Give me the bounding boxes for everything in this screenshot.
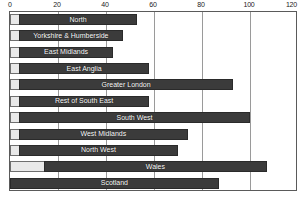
bar-row: West Midlands bbox=[10, 127, 296, 143]
bar-body: East Anglia bbox=[19, 63, 149, 74]
x-axis-tick-label: 20 bbox=[53, 0, 60, 9]
bar[interactable]: North bbox=[10, 14, 137, 25]
bar-body: Scotland bbox=[10, 178, 219, 189]
bar-body: North bbox=[19, 14, 137, 25]
x-axis-tick-label: 80 bbox=[197, 0, 204, 9]
bar-label: Scotland bbox=[11, 179, 218, 187]
x-axis-tick-label: 60 bbox=[149, 0, 156, 9]
bar[interactable]: East Anglia bbox=[10, 63, 149, 74]
bar-row: East Anglia bbox=[10, 61, 296, 77]
bar-label: South West bbox=[20, 114, 249, 122]
bar-row: Scotland bbox=[10, 176, 296, 192]
bar-row: Rest of South East bbox=[10, 94, 296, 110]
bar-row: East Midlands bbox=[10, 45, 296, 61]
bar-label: Wales bbox=[45, 163, 266, 171]
bar-start-cap bbox=[10, 161, 44, 172]
bar[interactable]: Scotland bbox=[10, 178, 219, 189]
bar-body: Greater London bbox=[19, 79, 233, 90]
bar-start-cap bbox=[10, 112, 19, 123]
bar[interactable]: Wales bbox=[10, 161, 267, 172]
bar-row: Yorkshire & Humberside bbox=[10, 28, 296, 44]
bar[interactable]: Rest of South East bbox=[10, 96, 149, 107]
bar-body: Wales bbox=[44, 161, 267, 172]
bar-label: East Anglia bbox=[20, 65, 148, 73]
bar-chart: 020406080100120 NorthYorkshire & Humbers… bbox=[0, 0, 305, 199]
bar-row: Wales bbox=[10, 159, 296, 175]
bar-label: Rest of South East bbox=[20, 97, 148, 105]
x-axis-tick-label: 100 bbox=[243, 0, 254, 9]
bar-body: East Midlands bbox=[19, 47, 113, 58]
bar-row: North bbox=[10, 12, 296, 28]
plot-area: NorthYorkshire & HumbersideEast Midlands… bbox=[9, 11, 297, 191]
bar[interactable]: East Midlands bbox=[10, 47, 113, 58]
bar[interactable]: Yorkshire & Humberside bbox=[10, 30, 123, 41]
bar[interactable]: Greater London bbox=[10, 79, 233, 90]
bar-start-cap bbox=[10, 145, 19, 156]
bar-body: South West bbox=[19, 112, 250, 123]
bar[interactable]: South West bbox=[10, 112, 250, 123]
bar-row: South West bbox=[10, 110, 296, 126]
bar-start-cap bbox=[10, 79, 19, 90]
bar-row: North West bbox=[10, 143, 296, 159]
bar-label: Greater London bbox=[20, 81, 232, 89]
bar-start-cap bbox=[10, 96, 19, 107]
bar-label: East Midlands bbox=[20, 48, 112, 56]
bar-label: West Midlands bbox=[20, 130, 187, 138]
bar-start-cap bbox=[10, 14, 19, 25]
x-axis-tick-label: 40 bbox=[101, 0, 108, 9]
x-axis-tick-label: 0 bbox=[8, 0, 12, 9]
bar-body: Yorkshire & Humberside bbox=[19, 30, 123, 41]
bar-label: Yorkshire & Humberside bbox=[20, 32, 122, 40]
bar[interactable]: West Midlands bbox=[10, 129, 188, 140]
bar[interactable]: North West bbox=[10, 145, 178, 156]
bar-body: Rest of South East bbox=[19, 96, 149, 107]
bar-label: North West bbox=[20, 146, 177, 154]
bar-start-cap bbox=[10, 129, 19, 140]
bar-body: West Midlands bbox=[19, 129, 188, 140]
x-axis-tick-label: 120 bbox=[286, 0, 297, 9]
bar-start-cap bbox=[10, 47, 19, 58]
bars-layer: NorthYorkshire & HumbersideEast Midlands… bbox=[10, 12, 296, 190]
bar-label: North bbox=[20, 16, 136, 24]
bar-row: Greater London bbox=[10, 77, 296, 93]
bar-body: North West bbox=[19, 145, 178, 156]
bar-start-cap bbox=[10, 63, 19, 74]
bar-start-cap bbox=[10, 30, 19, 41]
